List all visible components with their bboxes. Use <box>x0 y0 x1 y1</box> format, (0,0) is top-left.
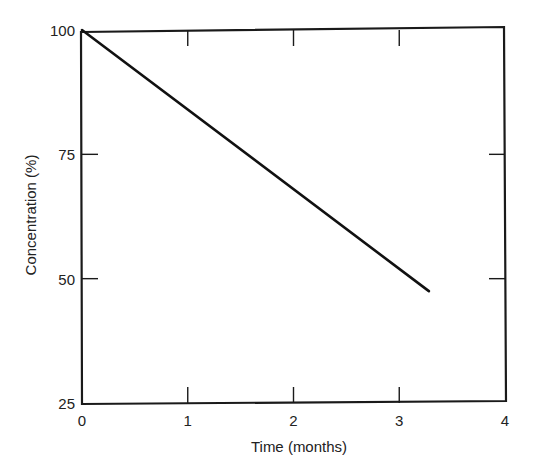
y-tick-label: 25 <box>58 395 75 412</box>
line-chart: 01234255075100 Time (months) Concentrati… <box>0 0 533 474</box>
x-axis-title: Time (months) <box>251 438 347 455</box>
axis-ticks <box>82 30 505 403</box>
tick-labels: 01234255075100 <box>50 22 509 429</box>
x-tick-label: 0 <box>78 412 86 429</box>
x-tick-label: 1 <box>184 412 192 429</box>
y-tick-label: 100 <box>50 22 75 39</box>
y-tick-label: 75 <box>58 146 75 163</box>
x-tick-label: 2 <box>289 412 297 429</box>
x-tick-label: 3 <box>395 412 403 429</box>
x-tick-label: 4 <box>501 412 509 429</box>
y-tick-label: 50 <box>58 271 75 288</box>
concentration-line <box>82 30 429 291</box>
y-axis-title: Concentration (%) <box>22 155 39 276</box>
data-series <box>82 30 429 291</box>
plot-frame <box>81 27 506 404</box>
